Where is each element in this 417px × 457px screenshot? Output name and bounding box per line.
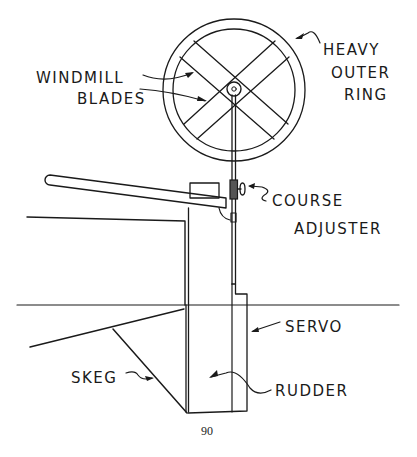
label-heavy-outer-ring-line1: HEAVY (323, 41, 380, 59)
windmill-blade-a (180, 41, 288, 139)
heavy-outer-ring-outer-edge (163, 19, 305, 161)
arrow-windmill-blade-1 (143, 73, 192, 79)
tiller (45, 175, 230, 220)
rudder-servo (188, 284, 247, 413)
label-windmill-blades-line2: BLADES (77, 90, 146, 108)
heavy-outer-ring-inner-edge (173, 29, 295, 151)
windmill-wheel (163, 19, 305, 161)
label-heavy-outer-ring-line3: RING (344, 86, 388, 104)
hull-bottom-line (30, 309, 184, 347)
label-heavy-outer-ring-line2: OUTER (331, 64, 390, 82)
page-number: 90 (201, 424, 213, 438)
label-course-adjuster-line2: ADJUSTER (294, 220, 382, 238)
label-course-adjuster-line1: COURSE (272, 192, 344, 210)
hub-icon (227, 82, 241, 96)
labels: WINDMILL BLADES HEAVY OUTER RING COURSE … (36, 41, 390, 438)
hub-pin (232, 87, 236, 91)
arrow-rudder (211, 372, 271, 393)
label-rudder: RUDDER (275, 382, 348, 400)
skeg-edge (113, 329, 187, 413)
label-skeg: SKEG (71, 369, 117, 387)
leader-arrows (126, 32, 320, 393)
self-steering-vane-diagram: WINDMILL BLADES HEAVY OUTER RING COURSE … (0, 0, 417, 457)
label-windmill-blades-line1: WINDMILL (36, 69, 124, 87)
label-servo: SERVO (285, 318, 343, 336)
